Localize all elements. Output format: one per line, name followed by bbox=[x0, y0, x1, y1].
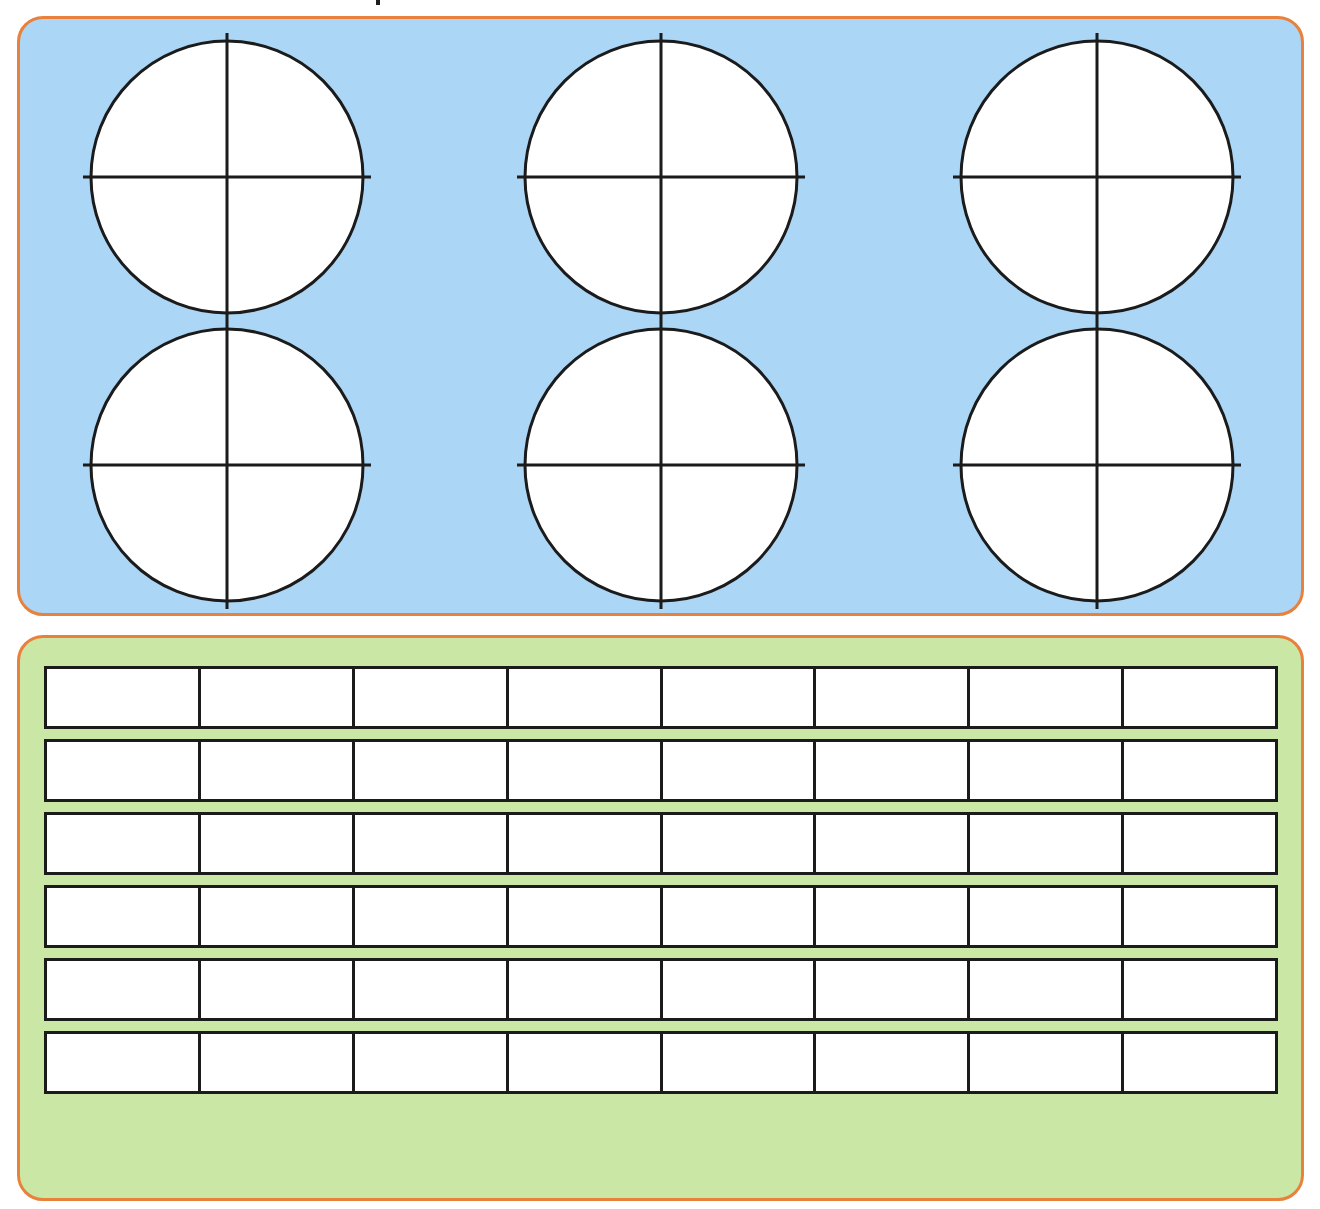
fraction-strip-cell[interactable] bbox=[663, 742, 817, 799]
circle-svg bbox=[517, 321, 805, 609]
fraction-strip[interactable] bbox=[44, 739, 1278, 802]
fraction-strip-cell[interactable] bbox=[47, 742, 201, 799]
fraction-strip-cell[interactable] bbox=[355, 961, 509, 1018]
circle-fraction-model[interactable] bbox=[83, 321, 371, 609]
circle-models-panel bbox=[17, 16, 1304, 616]
circle-svg bbox=[83, 321, 371, 609]
fraction-strip[interactable] bbox=[44, 958, 1278, 1021]
circle-fraction-model[interactable] bbox=[953, 321, 1241, 609]
fraction-strip-cell[interactable] bbox=[509, 961, 663, 1018]
fraction-strip-cell[interactable] bbox=[970, 961, 1124, 1018]
fraction-strip[interactable] bbox=[44, 812, 1278, 875]
circle-svg bbox=[953, 321, 1241, 609]
fraction-strip-cell[interactable] bbox=[201, 742, 355, 799]
fraction-strip-cell[interactable] bbox=[509, 669, 663, 726]
fraction-strip-cell[interactable] bbox=[47, 669, 201, 726]
fraction-strip-cell[interactable] bbox=[970, 669, 1124, 726]
fraction-strip-cell[interactable] bbox=[970, 888, 1124, 945]
fraction-strip-cell[interactable] bbox=[355, 1034, 509, 1091]
fraction-strip-cell[interactable] bbox=[201, 888, 355, 945]
fraction-strip-cell[interactable] bbox=[47, 961, 201, 1018]
fraction-strip-cell[interactable] bbox=[355, 888, 509, 945]
circle-svg bbox=[517, 33, 805, 321]
worksheet-page bbox=[0, 0, 1320, 1209]
fraction-strip-cell[interactable] bbox=[47, 888, 201, 945]
circle-svg bbox=[83, 33, 371, 321]
fraction-strip-cell[interactable] bbox=[47, 815, 201, 872]
fraction-strip-cell[interactable] bbox=[970, 815, 1124, 872]
fraction-strip-cell[interactable] bbox=[201, 961, 355, 1018]
fraction-strip-cell[interactable] bbox=[509, 1034, 663, 1091]
circle-fraction-model[interactable] bbox=[517, 321, 805, 609]
fraction-strip-cell[interactable] bbox=[1124, 669, 1275, 726]
fraction-strip-cell[interactable] bbox=[355, 669, 509, 726]
fraction-strip-cell[interactable] bbox=[1124, 815, 1275, 872]
fraction-strip-cell[interactable] bbox=[663, 815, 817, 872]
fraction-strip-cell[interactable] bbox=[663, 669, 817, 726]
fraction-strip-cell[interactable] bbox=[816, 1034, 970, 1091]
fraction-strip[interactable] bbox=[44, 885, 1278, 948]
fraction-strip-cell[interactable] bbox=[816, 742, 970, 799]
fraction-strip-cell[interactable] bbox=[663, 1034, 817, 1091]
fraction-strip-cell[interactable] bbox=[509, 888, 663, 945]
circle-fraction-model[interactable] bbox=[83, 33, 371, 321]
fraction-strip[interactable] bbox=[44, 666, 1278, 729]
fraction-strip-cell[interactable] bbox=[201, 1034, 355, 1091]
fraction-strip-cell[interactable] bbox=[355, 815, 509, 872]
fraction-strip-cell[interactable] bbox=[970, 742, 1124, 799]
fraction-strip-cell[interactable] bbox=[970, 1034, 1124, 1091]
fraction-strip-cell[interactable] bbox=[1124, 742, 1275, 799]
fraction-strip-cell[interactable] bbox=[47, 1034, 201, 1091]
fraction-strip-cell[interactable] bbox=[816, 815, 970, 872]
circle-svg bbox=[953, 33, 1241, 321]
fraction-strip-cell[interactable] bbox=[201, 669, 355, 726]
fraction-strip-cell[interactable] bbox=[816, 961, 970, 1018]
fraction-strip-cell[interactable] bbox=[509, 815, 663, 872]
rectangle-strips-panel bbox=[17, 635, 1304, 1201]
circle-fraction-model[interactable] bbox=[517, 33, 805, 321]
fraction-strip-cell[interactable] bbox=[816, 669, 970, 726]
fraction-strip-cell[interactable] bbox=[1124, 888, 1275, 945]
cropped-heading-fragment bbox=[376, 0, 380, 5]
fraction-strip[interactable] bbox=[44, 1031, 1278, 1094]
circle-fraction-model[interactable] bbox=[953, 33, 1241, 321]
fraction-strip-cell[interactable] bbox=[663, 888, 817, 945]
fraction-strip-cell[interactable] bbox=[1124, 1034, 1275, 1091]
fraction-strip-cell[interactable] bbox=[355, 742, 509, 799]
fraction-strip-cell[interactable] bbox=[201, 815, 355, 872]
fraction-strip-cell[interactable] bbox=[509, 742, 663, 799]
fraction-strip-cell[interactable] bbox=[1124, 961, 1275, 1018]
circle-grid bbox=[20, 19, 1301, 613]
fraction-strip-cell[interactable] bbox=[663, 961, 817, 1018]
fraction-strip-cell[interactable] bbox=[816, 888, 970, 945]
